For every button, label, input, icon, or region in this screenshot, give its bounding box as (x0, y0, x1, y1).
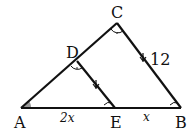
label-point-a: A (13, 113, 26, 132)
label-point-c: C (111, 3, 123, 22)
label-point-b: B (175, 113, 187, 132)
label-point-e: E (110, 113, 122, 132)
angle-d-dot (76, 67, 78, 69)
triangle-figure: C D A E B 12 2x x (0, 0, 195, 135)
label-length-ae: 2x (59, 111, 75, 125)
label-length-bc: 12 (150, 50, 170, 69)
angle-b-mark (170, 102, 177, 105)
label-point-d: D (66, 43, 79, 62)
label-length-eb: x (143, 110, 150, 124)
diagram-canvas: C D A E B 12 2x x (0, 0, 195, 135)
segment-bc (117, 23, 181, 108)
angle-e-mark (104, 102, 111, 105)
angle-c-dot (116, 32, 118, 34)
segment-ac (21, 23, 117, 108)
